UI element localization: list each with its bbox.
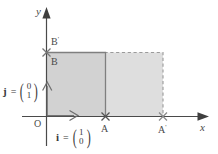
vector-j-paren-right: ) — [34, 80, 38, 102]
vector-i-component-1: 0 — [79, 137, 84, 146]
prime-mark-B: ' — [58, 35, 59, 43]
vector-i-matrix: ( 1 0 ) — [71, 126, 92, 148]
vector-j-component-1: 1 — [27, 91, 32, 100]
vector-j-equals: = — [9, 86, 19, 97]
vector-j-paren-left: ( — [20, 80, 24, 102]
vector-i-paren-right: ) — [86, 126, 90, 148]
point-label-B-prime-text: B — [51, 36, 58, 47]
vector-j-definition: j = ( 0 1 ) — [3, 80, 39, 102]
x-axis-label: x — [200, 122, 205, 133]
vector-i-components: 1 0 — [78, 128, 85, 147]
vector-i-equals: = — [61, 132, 71, 143]
point-label-B: B — [51, 57, 58, 67]
origin-label: O — [34, 119, 41, 129]
point-label-A: A — [101, 124, 108, 134]
figure-canvas: y x O B' B A A' j = ( 0 1 ) i = ( — [0, 0, 218, 154]
vector-i-definition: i = ( 1 0 ) — [56, 126, 92, 148]
vector-i-paren-left: ( — [72, 126, 76, 148]
label-layer: y x O B' B A A' j = ( 0 1 ) i = ( — [0, 0, 218, 154]
y-axis-label: y — [36, 6, 41, 17]
vector-j-components: 0 1 — [26, 82, 33, 101]
point-label-A-prime: A' — [158, 124, 167, 135]
prime-mark-A: ' — [165, 123, 166, 131]
point-label-B-prime: B' — [51, 36, 59, 47]
vector-j-matrix: ( 0 1 ) — [18, 80, 39, 102]
